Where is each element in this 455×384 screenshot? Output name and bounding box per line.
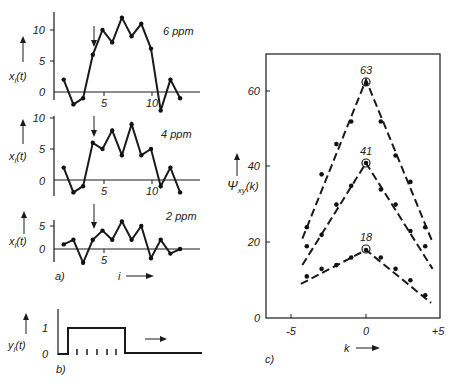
- data-point: [110, 238, 114, 242]
- tick-label: 0: [39, 243, 46, 255]
- data-point: [71, 190, 75, 194]
- data-point: [305, 244, 310, 249]
- annotation-6ppm: 6 ppm: [163, 25, 194, 37]
- tick-label: 40: [248, 160, 261, 172]
- data-point: [149, 256, 153, 260]
- tick-label: +5: [432, 325, 445, 337]
- data-point: [334, 142, 339, 147]
- data-point: [110, 40, 114, 44]
- data-point: [168, 77, 172, 81]
- data-point: [305, 274, 310, 279]
- tick-label: 0: [363, 325, 370, 337]
- tick-label: 0: [39, 175, 46, 187]
- data-point: [100, 147, 104, 151]
- data-point: [393, 153, 398, 158]
- panel-label-a: a): [55, 270, 65, 282]
- data-point: [364, 161, 369, 166]
- data-point: [408, 180, 413, 185]
- data-point: [120, 153, 124, 157]
- data-point: [319, 233, 324, 238]
- data-point: [62, 242, 66, 246]
- tick-label: 0: [39, 86, 46, 98]
- data-point: [159, 184, 163, 188]
- data-point: [120, 219, 124, 223]
- annotation-2ppm: 2 ppm: [165, 210, 197, 222]
- data-point: [91, 53, 95, 57]
- tick-label: 0: [42, 348, 49, 360]
- data-point: [334, 202, 339, 207]
- tick-label: 60: [248, 85, 261, 97]
- data-point: [393, 202, 398, 207]
- data-point: [159, 108, 163, 112]
- data-point: [71, 102, 75, 106]
- tick-label: 20: [247, 236, 261, 248]
- data-point: [319, 172, 324, 177]
- tick-label: 0: [254, 312, 261, 324]
- y-axis-label: xi(t): [8, 235, 27, 250]
- tick-label: 5: [101, 97, 108, 109]
- tick-label: -5: [286, 325, 297, 337]
- tick-label: 5: [39, 55, 46, 67]
- data-point: [379, 255, 384, 260]
- data-point: [129, 238, 133, 242]
- tick-label: 5: [39, 143, 46, 155]
- data-point: [423, 244, 428, 249]
- peak-label-63: 63: [360, 64, 373, 76]
- data-point: [393, 267, 398, 272]
- data-point: [364, 248, 369, 253]
- data-point: [110, 128, 114, 132]
- annotation-4ppm: 4 ppm: [161, 128, 192, 140]
- data-point: [149, 46, 153, 50]
- data-point: [334, 263, 339, 268]
- data-point: [71, 238, 75, 242]
- tick-label: 10: [33, 112, 46, 124]
- data-point: [139, 22, 143, 26]
- data-point: [120, 15, 124, 19]
- data-point: [91, 238, 95, 242]
- tick-label: 1: [42, 322, 48, 334]
- data-point: [62, 165, 66, 169]
- data-point: [91, 141, 95, 145]
- y-axis-label: yi(t): [7, 339, 26, 354]
- data-point: [81, 96, 85, 100]
- peak-label-41: 41: [360, 145, 372, 157]
- data-point: [178, 96, 182, 100]
- data-point: [178, 190, 182, 194]
- data-point: [423, 225, 428, 230]
- data-point: [81, 184, 85, 188]
- data-point: [319, 267, 324, 272]
- data-point: [408, 278, 413, 283]
- tick-label: 5: [39, 220, 46, 232]
- data-point: [139, 153, 143, 157]
- panel-label-c: c): [265, 353, 275, 365]
- data-point: [168, 251, 172, 255]
- data-point: [349, 119, 354, 124]
- data-point: [100, 228, 104, 232]
- data-point: [159, 238, 163, 242]
- data-point: [178, 247, 182, 251]
- data-point: [149, 147, 153, 151]
- plot-correlation: [266, 54, 440, 318]
- tick-label: 5: [101, 254, 108, 266]
- data-point: [81, 261, 85, 265]
- data-point: [305, 225, 310, 230]
- data-point: [349, 183, 354, 188]
- plot-input-pulse: [58, 309, 202, 355]
- data-point: [62, 77, 66, 81]
- figure: 10 5 0 5 10 6 ppm xi(t) 10 5 0 5 10 4 pp…: [0, 0, 455, 384]
- y-axis-label-psi: Ψxy(k): [227, 178, 259, 195]
- y-axis-label: xi(t): [8, 70, 27, 85]
- x-axis-label-i: i: [118, 270, 121, 282]
- tick-label: 5: [101, 185, 108, 197]
- data-point: [129, 122, 133, 126]
- peak-label-18: 18: [360, 231, 373, 243]
- panel-label-b: b): [56, 363, 66, 375]
- x-axis-label-k: k: [344, 342, 350, 354]
- data-point: [379, 187, 384, 192]
- data-point: [408, 229, 413, 234]
- data-point: [349, 255, 354, 260]
- y-axis-label: xi(t): [8, 150, 27, 165]
- data-point: [379, 119, 384, 124]
- data-point: [129, 34, 133, 38]
- tick-label: 10: [146, 97, 159, 109]
